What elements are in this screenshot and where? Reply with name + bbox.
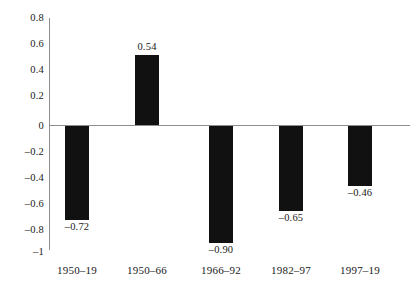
bar <box>279 126 303 211</box>
x-axis-category-label: 1966–92 <box>182 264 260 277</box>
bar <box>209 126 233 243</box>
bar-value-label: 0.54 <box>117 41 177 53</box>
bar-value-label: –0.46 <box>330 187 390 199</box>
bar-value-label: –0.65 <box>261 212 321 224</box>
x-axis-category-label: 1997–19 <box>321 264 399 277</box>
bar-value-label: –0.72 <box>47 221 107 233</box>
bar <box>348 126 372 186</box>
bar <box>65 126 89 220</box>
x-axis-category-label: 1982–97 <box>252 264 330 277</box>
bar-value-label: –0.90 <box>191 244 251 256</box>
bar-chart: 0.8 0.6 0.4 0.2 0 –0.2 –0.4 –0.6 –0.8 –1… <box>0 0 413 291</box>
x-axis-category-label: 1950–19 <box>38 264 116 277</box>
x-axis-category-label: 1950–66 <box>108 264 186 277</box>
plot-area: –0.72 0.54 –0.90 –0.65 –0.46 <box>0 0 413 291</box>
bar <box>135 55 159 125</box>
